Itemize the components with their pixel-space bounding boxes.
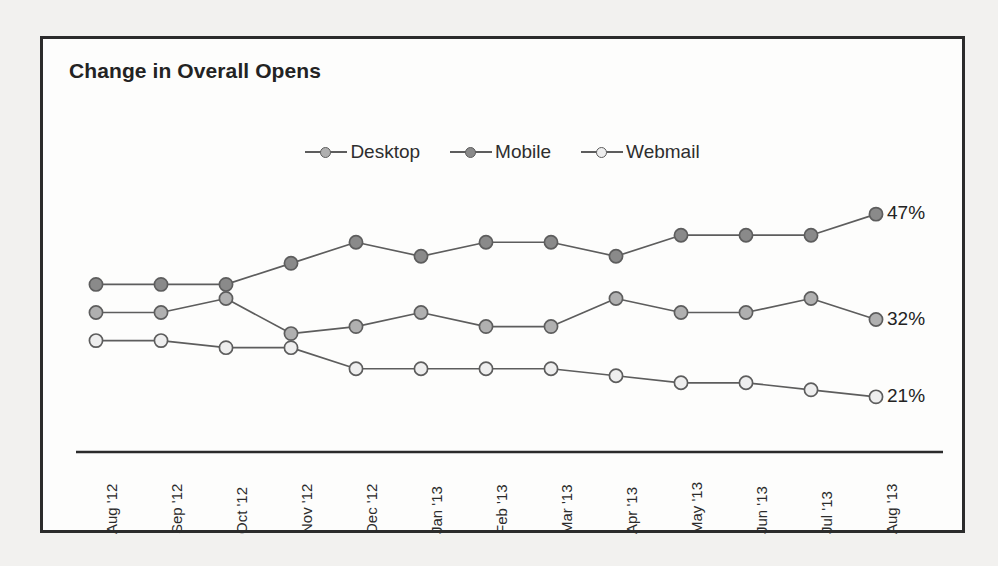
legend-item-desktop[interactable]: Desktop	[305, 141, 420, 163]
x-tick-label: Apr '13	[623, 487, 640, 534]
x-tick-label: Aug '13	[883, 484, 900, 534]
legend-label-webmail: Webmail	[623, 141, 700, 163]
value-label-mobile: 47%	[887, 202, 925, 224]
legend-marker-mobile-icon	[450, 143, 492, 161]
x-tick-label: Jul '13	[818, 491, 835, 534]
legend-label-desktop: Desktop	[347, 141, 420, 163]
legend-marker-desktop-icon	[305, 143, 347, 161]
x-tick-label: May '13	[688, 482, 705, 534]
x-tick-label: Sep '12	[168, 484, 185, 534]
legend-label-mobile: Mobile	[492, 141, 551, 163]
x-tick-label: Nov '12	[298, 484, 315, 534]
x-tick-label: Jun '13	[753, 486, 770, 534]
x-tick-label: Aug '12	[103, 484, 120, 534]
line-chart-plot	[43, 39, 962, 530]
value-label-webmail: 21%	[887, 385, 925, 407]
x-tick-label: Jan '13	[428, 486, 445, 534]
legend-item-mobile[interactable]: Mobile	[450, 141, 551, 163]
x-tick-label: Mar '13	[558, 484, 575, 534]
chart-frame: Change in Overall Opens Desktop Mobile W…	[40, 36, 965, 533]
x-tick-label: Oct '12	[233, 487, 250, 534]
page-title: Change in Overall Opens	[69, 59, 321, 83]
legend-item-webmail[interactable]: Webmail	[581, 141, 700, 163]
x-tick-label: Feb '13	[493, 484, 510, 534]
chart-legend: Desktop Mobile Webmail	[43, 141, 962, 163]
legend-marker-webmail-icon	[581, 143, 623, 161]
value-label-desktop: 32%	[887, 308, 925, 330]
x-tick-label: Dec '12	[363, 484, 380, 534]
